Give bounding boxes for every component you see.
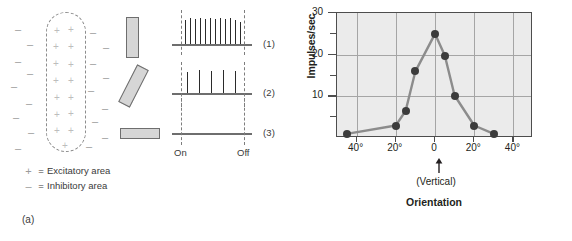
y-axis-minor-tick [330,33,336,34]
stimulus-off-line [244,98,245,145]
inhibitory-symbol: – [92,116,98,126]
y-axis-tick-label: 10 [303,89,323,100]
excitatory-symbol: + [68,109,74,119]
inhibitory-symbol: – [26,98,32,108]
panel-a: – – – – – – – – – – – – – – – – – – + + … [0,0,290,241]
y-axis-tick [328,54,336,55]
stimulus-off-line [244,10,245,55]
spike [235,71,236,93]
excitatory-symbol: + [53,42,59,52]
inhibitory-symbol: – [15,24,21,34]
inhibitory-symbol: – [15,56,21,66]
legend-label-excitatory: Excitatory area [47,165,110,176]
data-point [431,30,439,38]
inhibitory-symbol: – [86,141,92,151]
figure-orientation-tuning: – – – – – – – – – – – – – – – – – – + + … [0,0,572,241]
panel-a-caption: (a) [22,214,34,225]
inhibitory-symbol: – [11,81,17,91]
stimulus-bar-horizontal [120,128,160,139]
inhibitory-symbol: – [27,68,33,78]
data-point [343,130,351,138]
excitatory-symbol: + [54,93,60,103]
inhibitory-symbol: – [90,27,96,37]
inhibitory-symbol: – [103,42,109,52]
data-point [402,107,410,115]
spike [215,19,216,44]
trace-baseline [172,133,252,135]
data-point [490,130,498,138]
stimulus-off-label: Off [237,147,250,158]
spike [185,20,186,44]
legend-label-inhibitory: Inhibitory area [47,180,107,191]
trace-label-3: (3) [263,127,275,138]
inhibitory-symbol: – [102,132,108,142]
receptive-field-outline [46,12,86,152]
spike [220,18,221,44]
x-axis-tick-label: 20° [458,142,488,153]
excitatory-symbol: + [54,110,60,120]
data-point [441,52,449,60]
spike [195,19,196,44]
receptive-field-diagram: – – – – – – – – – – – – – – – – – – + + … [8,8,120,160]
inhibitory-key-icon: – [22,180,35,192]
spike [210,18,211,44]
y-axis-tick [328,12,336,13]
x-axis-tick-label: 40° [497,142,527,153]
data-point [451,92,459,100]
excitatory-symbol: + [68,93,74,103]
stimulus-on-line [181,10,182,55]
legend: + = Excitatory area – = Inhibitory area [22,163,110,193]
spike [199,70,200,93]
y-axis-tick-label: 20 [303,48,323,59]
inhibitory-symbol: – [90,58,96,68]
x-axis-tick-label: 0 [419,142,449,153]
inhibitory-symbol: – [102,103,108,113]
x-axis-label: Orientation [336,196,532,208]
spike [190,18,191,44]
excitatory-symbol: + [62,141,68,151]
excitatory-symbol: + [68,25,74,35]
excitatory-symbol: + [53,59,59,69]
spike [187,72,188,93]
inhibitory-symbol: – [103,72,109,82]
stimulus-bar-oblique [118,64,149,107]
stimulus-on-label: On [174,147,187,158]
stimulus-bar-vertical [126,17,139,58]
trace-label-2: (2) [263,87,275,98]
inhibitory-symbol: – [13,112,19,122]
spike [225,19,226,44]
inhibitory-symbol: – [28,127,34,137]
legend-item-inhibitory: – = Inhibitory area [22,178,110,193]
spike [230,18,231,44]
inhibitory-symbol: – [27,39,33,49]
data-point [470,122,478,130]
y-axis-tick-label: 30 [303,6,323,17]
spike-train-2: (2) [172,62,282,107]
panel-b: Impulses/sec 102030 40°20°020°40° (Verti… [290,0,572,241]
trace-label-1: (1) [263,38,275,49]
excitatory-symbol: + [68,126,74,136]
spike-train-1: (1) [172,10,282,55]
inhibitory-symbol: – [88,85,94,95]
legend-equals: = [35,165,47,176]
y-axis-minor-tick [330,116,336,117]
excitatory-symbol: + [54,126,60,136]
y-axis-minor-tick [330,75,336,76]
spike-train-3: (3) On Off [172,114,282,160]
excitatory-symbol: + [54,26,60,36]
spike [240,22,241,44]
x-axis-tick-label: 20° [380,142,410,153]
x-axis-tick-label: 40° [341,142,371,153]
spike [235,20,236,44]
trace-baseline [172,44,252,46]
y-axis-tick [328,95,336,96]
excitatory-symbol: + [68,42,74,52]
excitatory-symbol: + [68,76,74,86]
trace-baseline [172,93,252,95]
spike [200,18,201,44]
spike [211,71,212,93]
stimulus-on-line [181,98,182,145]
data-point [392,122,400,130]
spike [205,19,206,44]
spike [223,70,224,93]
